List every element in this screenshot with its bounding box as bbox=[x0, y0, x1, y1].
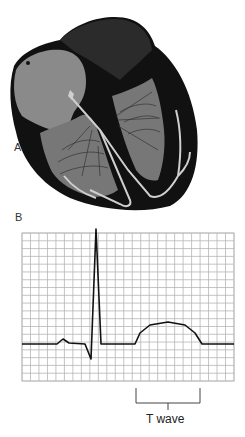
sa-node-icon bbox=[26, 61, 30, 65]
heart-illustration bbox=[10, 17, 197, 210]
ecg-grid bbox=[22, 233, 234, 381]
t-wave-label: T wave bbox=[146, 412, 184, 426]
t-wave-bracket bbox=[136, 388, 200, 410]
figure-canvas bbox=[0, 0, 245, 437]
